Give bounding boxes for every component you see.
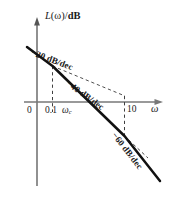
omega-c-symbol: ω	[62, 105, 69, 115]
y-axis-title-arg: (ω)	[51, 10, 65, 21]
y-axis-arrowhead	[34, 17, 40, 26]
origin-tick-label: 0	[27, 106, 32, 116]
x-tick-label-10: 10	[127, 105, 137, 115]
x-tick-label-omega-c: ωc	[62, 106, 72, 116]
x-tick-label-0-1: 0.1	[45, 106, 57, 116]
y-axis-title: L(ω)/dB	[45, 11, 81, 22]
bode-plot-figure: L(ω)/dB ω 0 0.1 ωc 10 −20 dB/dec −40 dB/…	[0, 0, 171, 197]
omega-c-subscript: c	[69, 108, 72, 115]
y-axis-title-unit: /dB	[65, 10, 81, 21]
x-axis-title: ω	[151, 104, 158, 115]
